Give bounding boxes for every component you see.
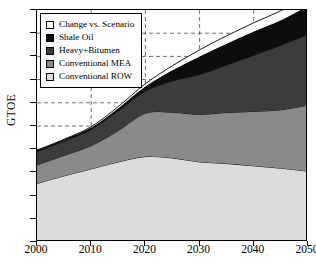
legend-item[interactable]: Conventional ROW: [46, 70, 134, 83]
chart-legend: Change vs. ScenarioShale OilHeavy+Bitume…: [40, 13, 142, 88]
legend-item-label: Heavy+Bitumen: [59, 46, 120, 55]
legend-swatch-icon: [46, 47, 54, 55]
legend-item-label: Conventional ROW: [59, 72, 132, 81]
x-tick-label: 2050: [284, 244, 316, 256]
x-tick-mark: [36, 241, 37, 246]
legend-swatch-icon: [46, 73, 54, 81]
legend-item-label: Conventional MEA: [59, 59, 131, 68]
x-tick-mark: [307, 241, 308, 246]
x-tick-mark: [199, 241, 200, 246]
legend-item-label: Shale Oil: [59, 33, 93, 42]
figure-root: GTOE 012345678910 2000201020202030204020…: [0, 0, 316, 269]
y-axis-title: GTOE: [5, 80, 17, 140]
legend-swatch-icon: [46, 34, 54, 42]
legend-item-label: Change vs. Scenario: [59, 20, 134, 29]
legend-swatch-icon: [46, 60, 54, 68]
legend-item[interactable]: Heavy+Bitumen: [46, 44, 134, 57]
x-tick-mark: [253, 241, 254, 246]
legend-item[interactable]: Change vs. Scenario: [46, 18, 134, 31]
legend-swatch-icon: [46, 21, 54, 29]
legend-item[interactable]: Conventional MEA: [46, 57, 134, 70]
x-tick-mark: [144, 241, 145, 246]
x-tick-mark: [90, 241, 91, 246]
legend-item[interactable]: Shale Oil: [46, 31, 134, 44]
